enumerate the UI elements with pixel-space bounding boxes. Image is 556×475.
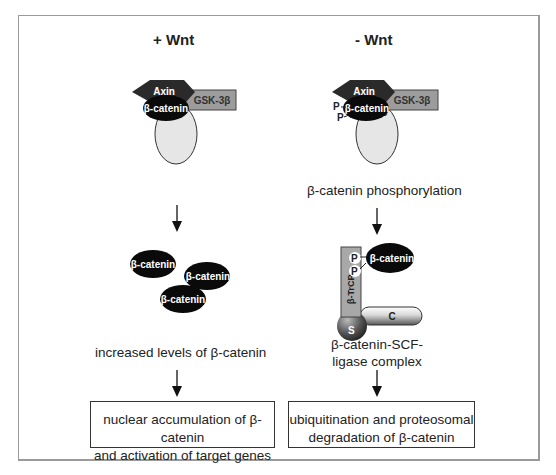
left-outcome-box: nuclear accumulation of β-catenin and ac… xyxy=(90,401,275,448)
skp1-label: S xyxy=(348,325,355,336)
phospho-label-2: P xyxy=(351,266,358,277)
phospho-label-2: P xyxy=(337,112,344,123)
beta-catenin-label: β-catenin xyxy=(144,103,188,114)
beta-catenin-label: β-catenin xyxy=(131,259,175,270)
phospho-label-1: P xyxy=(333,101,340,112)
beta-catenin-label: β-catenin xyxy=(161,294,205,305)
left-destruction-complex: APC GSK-3β Axin β-catenin xyxy=(130,80,250,170)
right-outcome-line2: degradation of β-catenin xyxy=(289,429,474,447)
scf-complex-label-line2: ligase complex xyxy=(317,354,437,369)
arrow-down-icon xyxy=(170,370,184,398)
gsk3b-label: GSK-3β xyxy=(394,95,431,106)
right-destruction-complex: APC GSK-3β Axin β-catenin P P xyxy=(330,80,450,170)
right-outcome-box: ubiquitination and proteosomal degradati… xyxy=(288,401,475,448)
phospho-label-1: P xyxy=(351,253,358,264)
phosphorylation-label: β-catenin phosphorylation xyxy=(307,183,447,198)
btrcp-label: β-TrCP xyxy=(346,275,356,305)
cullin-label: C xyxy=(388,311,395,322)
diagram-frame xyxy=(18,15,540,461)
increased-levels-label: increased levels of β-catenin xyxy=(95,345,255,360)
left-title: + Wnt xyxy=(153,31,194,48)
beta-catenin-label: β-catenin xyxy=(186,271,230,282)
left-outcome-line2: and activation of target genes xyxy=(91,447,274,465)
left-outcome-line1: nuclear accumulation of β-catenin xyxy=(91,411,274,447)
scf-ligase-complex: C S β-TrCP P P β-catenin xyxy=(322,240,432,350)
arrow-down-icon xyxy=(170,205,184,233)
free-beta-catenin-cluster: β-catenin β-catenin β-catenin xyxy=(130,250,240,325)
beta-catenin-label: β-catenin xyxy=(345,103,389,114)
arrow-down-icon xyxy=(370,370,384,398)
gsk3b-label: GSK-3β xyxy=(194,95,231,106)
arrow-down-icon xyxy=(370,208,384,236)
beta-catenin-label: β-catenin xyxy=(370,253,414,264)
scf-complex-label-line1: β-catenin-SCF- xyxy=(317,337,437,352)
right-outcome-line1: ubiquitination and proteosomal xyxy=(289,411,474,429)
right-title: - Wnt xyxy=(355,31,392,48)
